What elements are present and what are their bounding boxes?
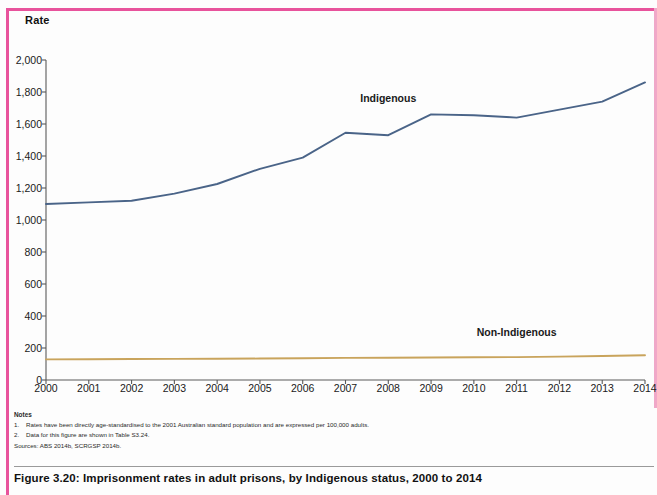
x-axis-tick-label: 2007 [334,382,357,394]
x-axis-tick-label: 2014 [633,382,656,394]
x-axis-tick-label: 2001 [77,382,100,394]
notes-heading: Notes [14,410,644,419]
x-axis-tick-label: 2005 [248,382,271,394]
x-axis-tick-label: 2000 [34,382,57,394]
x-axis-tick-label: 2004 [205,382,228,394]
series-label-indigenous: Indigenous [360,92,416,104]
x-axis-tick-label: 2008 [377,382,400,394]
note-item: 1.Rates have been directly age-standardi… [14,421,644,430]
figure-caption: Figure 3.20: Imprisonment rates in adult… [14,472,654,484]
figure-notes: Notes 1.Rates have been directly age-sta… [14,410,644,451]
caption-divider [14,466,654,467]
scanned-page: Rate 02004006008001,0001,2001,4001,6001,… [0,0,657,495]
note-number: 1. [14,421,21,430]
series-label-non-indigenous: Non-Indigenous [477,326,557,338]
x-axis-tick-labels: 2000200120022003200420052006200720082009… [0,382,657,404]
series-line-indigenous [46,82,645,204]
series-line-non-indigenous [46,355,645,359]
x-axis-tick-label: 2006 [291,382,314,394]
x-axis-tick-label: 2010 [462,382,485,394]
note-number: 2. [14,431,21,440]
note-text: Rates have been directly age-standardise… [26,421,369,430]
x-axis-tick-label: 2003 [163,382,186,394]
notes-list: 1.Rates have been directly age-standardi… [14,421,644,440]
sources-line: Sources: ABS 2014b, SCRGSP 2014b. [14,442,644,451]
note-text: Data for this figure are shown in Table … [26,431,149,440]
x-axis-tick-label: 2013 [591,382,614,394]
chart-plot-svg [0,8,657,408]
x-axis-tick-label: 2009 [419,382,442,394]
data-series-lines [46,82,645,359]
chart-figure: Rate 02004006008001,0001,2001,4001,6001,… [0,8,657,408]
x-axis-tick-label: 2002 [120,382,143,394]
note-item: 2.Data for this figure are shown in Tabl… [14,431,644,440]
x-axis-tick-label: 2011 [505,382,528,394]
x-axis-tick-label: 2012 [548,382,571,394]
